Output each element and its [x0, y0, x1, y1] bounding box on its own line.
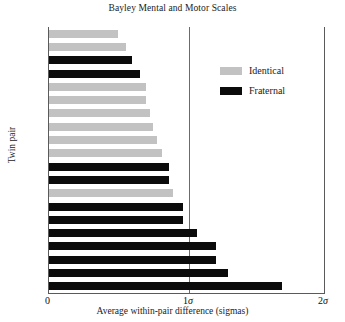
bar-o	[49, 216, 183, 224]
bar-g	[49, 123, 153, 131]
bar-fill-e	[49, 96, 146, 104]
bar-fill-n	[49, 70, 140, 78]
bar-t	[49, 269, 228, 277]
bar-n	[49, 70, 140, 78]
bar-fill-a	[49, 109, 150, 117]
bar-fill-i	[49, 149, 162, 157]
bar-fill-d	[49, 43, 126, 51]
bar-fill-c	[49, 189, 173, 197]
bar-c	[49, 189, 173, 197]
chart-container: Bayley Mental and Motor Scales Twin pair…	[0, 0, 345, 322]
bar-k	[49, 136, 157, 144]
bar-fill-g	[49, 123, 153, 131]
bar-fill-p	[49, 176, 169, 184]
gridline-1-sigma	[189, 27, 190, 293]
bar-i	[49, 149, 162, 157]
bar-fill-o	[49, 216, 183, 224]
right-frame-line	[324, 27, 325, 293]
bar-h	[49, 56, 132, 64]
x-tick-label-0: 0	[45, 295, 50, 306]
legend-swatch-fraternal	[220, 87, 242, 95]
bar-s	[49, 282, 282, 290]
x-tick-label-1: 1σ	[183, 295, 193, 306]
bar-b	[49, 30, 118, 38]
legend-label-identical: Identical	[249, 63, 284, 79]
bar-m	[49, 242, 216, 250]
x-tick-label-2: 2σ	[318, 295, 328, 306]
bar-fill-f	[49, 83, 146, 91]
chart-title: Bayley Mental and Motor Scales	[0, 3, 345, 13]
bar-fill-k	[49, 136, 157, 144]
bar-fill-j	[49, 256, 216, 264]
bar-fill-t	[49, 269, 228, 277]
bar-d	[49, 43, 126, 51]
bar-fill-b	[49, 30, 118, 38]
x-axis-line	[48, 293, 325, 294]
bar-r	[49, 203, 183, 211]
bar-fill-l	[49, 229, 197, 237]
bar-fill-r	[49, 203, 183, 211]
bar-fill-s	[49, 282, 282, 290]
bar-e	[49, 96, 146, 104]
bar-fill-m	[49, 242, 216, 250]
bar-a	[49, 109, 150, 117]
bar-q	[49, 163, 169, 171]
y-axis-line	[48, 27, 49, 293]
bar-l	[49, 229, 197, 237]
bar-j	[49, 256, 216, 264]
bar-fill-h	[49, 56, 132, 64]
y-axis-title: Twin pair	[7, 110, 17, 180]
x-axis-title: Average within-pair difference (sigmas)	[0, 306, 345, 316]
legend-swatch-identical	[220, 67, 242, 75]
legend-label-fraternal: Fraternal	[249, 83, 285, 99]
bar-f	[49, 83, 146, 91]
bar-p	[49, 176, 169, 184]
plot-area: BDHNFEAGKIQPCROLMJTS 0 1σ 2σ Identical F…	[48, 27, 325, 293]
bar-fill-q	[49, 163, 169, 171]
